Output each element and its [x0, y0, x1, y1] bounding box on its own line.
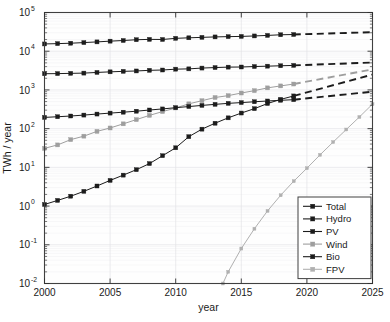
data-point-hydro [252, 65, 256, 69]
data-point-bio [69, 114, 73, 118]
data-point-fpv [240, 247, 243, 250]
data-point-wind [213, 96, 217, 100]
data-point-wind [226, 94, 230, 98]
y-tick-label-base: 10 [19, 201, 31, 212]
data-point-hydro [279, 64, 283, 68]
data-point-hydro [266, 64, 270, 68]
data-point-hydro [213, 66, 217, 70]
y-tick-label-base: 10 [19, 239, 31, 250]
data-point-total [82, 41, 86, 45]
data-point-pv [239, 111, 243, 115]
data-point-pv [213, 121, 217, 125]
data-point-pv [174, 146, 178, 150]
figure-container: 10-210-1100101102103104105 2000200520102… [0, 0, 390, 322]
x-tick-label: 2010 [165, 287, 188, 298]
data-point-hydro [239, 65, 243, 69]
data-point-pv [69, 194, 73, 198]
data-point-total [56, 42, 60, 46]
x-tick-label: 2015 [230, 287, 253, 298]
data-point-hydro [147, 68, 151, 72]
legend-marker-bio [311, 255, 315, 259]
data-point-wind [69, 138, 73, 142]
x-tick-label: 2005 [99, 287, 122, 298]
legend-marker-wind [311, 242, 315, 246]
data-point-total [187, 36, 191, 40]
y-tick-label-base: 10 [19, 46, 31, 57]
y-tick-label-exponent: 2 [31, 121, 35, 128]
data-point-pv [134, 168, 138, 172]
data-point-pv [108, 178, 112, 182]
data-point-fpv [305, 167, 308, 170]
data-point-wind [95, 129, 99, 133]
data-point-hydro [56, 72, 60, 76]
data-point-hydro [226, 65, 230, 69]
data-point-wind [200, 99, 204, 103]
data-point-fpv [332, 141, 335, 144]
data-point-total [108, 39, 112, 43]
data-point-total [252, 34, 256, 38]
data-point-bio [239, 101, 243, 105]
data-point-bio [200, 103, 204, 107]
data-point-total [266, 33, 270, 37]
data-point-bio [252, 100, 256, 104]
data-point-hydro [161, 68, 165, 72]
data-point-fpv [358, 115, 361, 118]
data-point-hydro [200, 66, 204, 70]
data-point-bio [134, 109, 138, 113]
data-point-bio [147, 108, 151, 112]
legend[interactable]: TotalHydroPVWindBioFPV [298, 197, 371, 279]
data-point-wind [121, 122, 125, 126]
data-point-pv [56, 198, 60, 202]
y-tick-label-base: 10 [19, 123, 31, 134]
legend-label-wind: Wind [326, 239, 348, 250]
data-point-bio [121, 110, 125, 114]
y-tick-label-exponent: 1 [31, 160, 35, 167]
data-point-wind [134, 118, 138, 122]
x-axis-title: year [198, 301, 219, 313]
data-point-wind [266, 86, 270, 90]
data-point-total [174, 36, 178, 40]
data-point-pv [226, 116, 230, 120]
data-point-pv [200, 127, 204, 131]
legend-marker-hydro [311, 217, 315, 221]
data-point-total [279, 33, 283, 37]
data-point-total [147, 37, 151, 41]
data-point-bio [187, 105, 191, 109]
data-point-total [226, 35, 230, 39]
data-point-wind [108, 126, 112, 130]
data-point-fpv [227, 270, 230, 273]
y-tick-label-exponent: -2 [31, 276, 37, 283]
data-point-hydro [82, 71, 86, 75]
data-point-total [69, 41, 73, 45]
data-point-hydro [95, 70, 99, 74]
data-point-pv [187, 135, 191, 139]
data-point-bio [82, 113, 86, 117]
data-point-fpv [253, 227, 256, 230]
x-tick-label: 2025 [361, 287, 384, 298]
data-point-wind [279, 84, 283, 88]
data-point-bio [266, 99, 270, 103]
data-point-total [213, 35, 217, 39]
legend-marker-total [311, 204, 315, 208]
data-point-wind [56, 143, 60, 147]
y-tick-label-exponent: -1 [31, 237, 37, 244]
legend-label-total: Total [326, 201, 346, 212]
data-point-bio [226, 101, 230, 105]
data-point-fpv [266, 209, 269, 212]
data-point-wind [82, 134, 86, 138]
y-tick-label-exponent: 0 [31, 198, 35, 205]
y-tick-label-exponent: 4 [31, 43, 35, 50]
y-tick-label-base: 10 [19, 7, 31, 18]
data-point-fpv [319, 153, 322, 156]
y-tick-label-exponent: 5 [31, 5, 35, 12]
data-point-total [134, 38, 138, 42]
data-point-pv [121, 173, 125, 177]
y-tick-label-base: 10 [19, 85, 31, 96]
data-point-total [161, 37, 165, 41]
y-axis-title: TWh / year [1, 122, 13, 174]
data-point-bio [213, 102, 217, 106]
data-point-fpv [345, 128, 348, 131]
data-point-wind [147, 113, 151, 117]
data-point-total [239, 34, 243, 38]
data-point-fpv [292, 180, 295, 183]
